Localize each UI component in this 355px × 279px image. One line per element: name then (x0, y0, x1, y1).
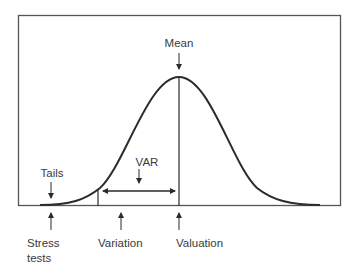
valuation-label: Valuation (176, 237, 223, 249)
stress-tests-label-line2: tests (27, 252, 52, 264)
mean-label: Mean (165, 37, 194, 49)
bell-curve (40, 77, 320, 205)
var-label: VAR (136, 156, 159, 168)
risk-distribution-diagram: Mean VAR Tails Stress tests Variation Va… (0, 0, 355, 279)
tails-label: Tails (40, 167, 63, 179)
stress-tests-label-line1: Stress (27, 237, 60, 249)
variation-label: Variation (98, 237, 143, 249)
